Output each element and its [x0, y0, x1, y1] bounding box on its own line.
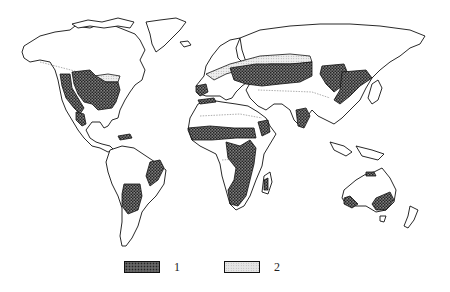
land-japan	[368, 80, 382, 104]
zone1-honduras	[118, 134, 132, 140]
zone1-australia-north	[366, 172, 376, 176]
land-new-zealand	[404, 206, 418, 228]
legend-item-2: 2	[224, 259, 280, 275]
legend-label-1: 1	[174, 260, 180, 275]
legend-swatch-zone-1	[124, 261, 160, 273]
legend-swatch-zone-2	[224, 261, 260, 273]
zone1-india-deccan	[296, 108, 310, 128]
land-tasmania	[380, 216, 386, 222]
zone1-madagascar-west	[264, 178, 268, 190]
land-greenland	[146, 18, 186, 52]
land-southeast-asia-islands	[330, 142, 384, 160]
legend-item-1: 1	[124, 259, 180, 275]
zone1-sahel	[188, 126, 256, 140]
legend-label-2: 2	[274, 260, 280, 275]
land-iceland	[180, 41, 191, 47]
world-map	[0, 0, 450, 292]
land-arctic-islands	[72, 18, 134, 28]
